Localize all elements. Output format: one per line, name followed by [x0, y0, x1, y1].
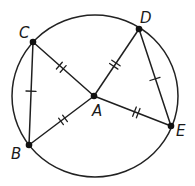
segment-cb — [29, 42, 33, 145]
point-e — [168, 123, 175, 130]
label-b: B — [11, 145, 21, 163]
geometry-diagram: A B C D E — [0, 0, 195, 186]
point-c — [30, 39, 37, 46]
label-a: A — [91, 102, 102, 120]
segment-ae — [94, 96, 171, 126]
label-c: C — [19, 24, 30, 42]
point-b — [26, 142, 33, 149]
segment-de — [139, 29, 171, 126]
label-e: E — [176, 122, 186, 140]
segment-da — [94, 29, 139, 96]
label-d: D — [140, 9, 152, 27]
segment-ba — [29, 96, 94, 145]
point-a — [91, 93, 98, 100]
